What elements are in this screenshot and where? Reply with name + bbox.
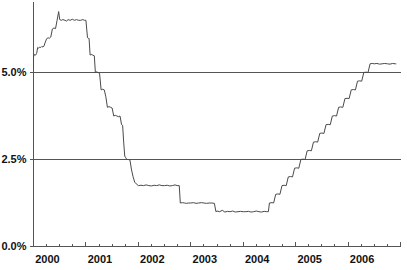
y-tick-label-2_5: 2.5% <box>1 153 26 165</box>
data-series <box>34 12 397 212</box>
x-tick-label-2004: 2004 <box>245 253 270 265</box>
x-tick-label-2002: 2002 <box>140 253 164 265</box>
gridlines <box>34 73 401 160</box>
series-line-Rate <box>34 12 397 212</box>
x-tick-label-2005: 2005 <box>297 253 321 265</box>
line-chart: 0.0%2.5%5.0% 200020012002200320042005200… <box>0 0 407 270</box>
x-tick-label-2006: 2006 <box>350 253 374 265</box>
x-tick-label-2000: 2000 <box>35 253 59 265</box>
x-tick-label-2003: 2003 <box>193 253 217 265</box>
chart-container: 0.0%2.5%5.0% 200020012002200320042005200… <box>0 0 407 270</box>
y-tick-label-0: 0.0% <box>1 240 26 252</box>
x-axis-labels: 2000200120022003200420052006 <box>35 253 374 265</box>
y-tick-label-5: 5.0% <box>1 66 26 78</box>
x-tick-label-2001: 2001 <box>88 253 112 265</box>
y-axis-labels: 0.0%2.5%5.0% <box>1 66 26 252</box>
